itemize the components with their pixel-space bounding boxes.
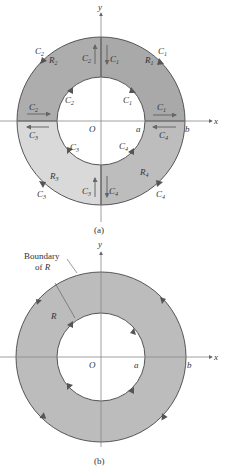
figure-a: y x O a b R1 R2 R3 R4 C1 C1 C1 C1 C2 C2 … xyxy=(0,2,218,235)
curve-label-c2: C2 xyxy=(35,46,44,57)
origin-label: O xyxy=(89,124,96,134)
y-axis-label: y xyxy=(97,2,102,12)
annotation-boundary: Boundary xyxy=(24,251,60,261)
curve-label-c1: C1 xyxy=(123,95,132,106)
curve-label-c4: C4 xyxy=(119,141,128,152)
figure-b: Boundary of R R y x O a b (b) xyxy=(0,239,218,466)
caption-b: (b) xyxy=(94,456,105,466)
caption-a: (a) xyxy=(94,225,104,235)
curve-label-c3: C3 xyxy=(70,142,79,153)
curve-label-c3: C3 xyxy=(37,189,46,200)
origin-label: O xyxy=(89,360,96,370)
x-axis-label: x xyxy=(213,352,218,362)
arrowhead-icon xyxy=(156,180,163,187)
radius-a-label: a xyxy=(134,360,139,370)
arrowhead-icon xyxy=(39,181,46,188)
region-label-r: R xyxy=(50,311,57,321)
radius-b-label: b xyxy=(187,360,192,370)
radius-a-label: a xyxy=(136,124,141,134)
curve-label-c1: C1 xyxy=(158,46,167,57)
annulus-figure: y x O a b R1 R2 R3 R4 C1 C1 C1 C1 C2 C2 … xyxy=(0,0,226,470)
annotation-leader-outer xyxy=(67,259,77,273)
annotation-of-r: of R xyxy=(35,262,51,272)
curve-label-c4: C4 xyxy=(156,189,165,200)
y-axis-label: y xyxy=(97,239,102,249)
radius-b-label: b xyxy=(185,124,190,134)
curve-label-c2: C2 xyxy=(65,95,74,106)
x-axis-label: x xyxy=(213,116,218,126)
